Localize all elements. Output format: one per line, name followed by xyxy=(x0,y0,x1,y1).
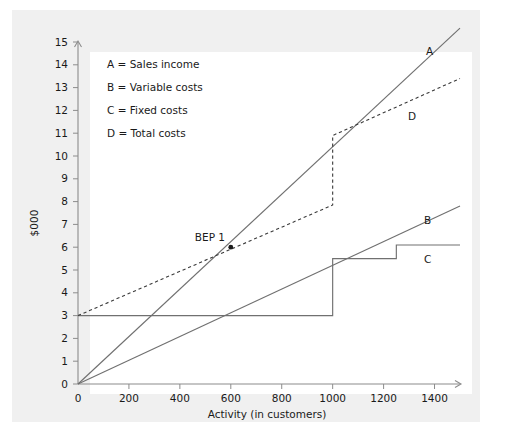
y-axis-title: $000 xyxy=(28,210,40,237)
bep-marker-dot xyxy=(228,245,233,250)
y-tick-0: 0 xyxy=(61,378,78,390)
y-tick-label: 8 xyxy=(61,195,68,207)
series-end-labels: A D B C xyxy=(408,45,434,265)
y-tick-label: 9 xyxy=(61,172,68,184)
y-tick-11: 11 xyxy=(55,127,78,139)
x-tick-label: 600 xyxy=(221,392,241,404)
y-tick-label: 7 xyxy=(61,218,68,230)
x-tick-1400: 1400 xyxy=(421,384,448,404)
legend-entry-a: A = Sales income xyxy=(107,58,199,70)
y-tick-1: 1 xyxy=(61,355,78,367)
x-tick-800: 800 xyxy=(272,384,292,404)
y-tick-label: 14 xyxy=(55,58,69,70)
y-tick-label: 0 xyxy=(61,378,68,390)
x-tick-label: 400 xyxy=(170,392,190,404)
x-tick-1000: 1000 xyxy=(319,384,346,404)
y-tick-label: 6 xyxy=(61,241,68,253)
bep-label: BEP 1 xyxy=(195,231,225,243)
chart-page: 0 1 2 3 4 5 6 7 8 9 10 11 12 13 14 15 0 … xyxy=(0,0,508,444)
y-tick-7: 7 xyxy=(61,218,78,230)
series-c-fixed-costs xyxy=(78,245,460,316)
y-axis-ticks: 0 1 2 3 4 5 6 7 8 9 10 11 12 13 14 15 xyxy=(55,36,78,390)
y-tick-14: 14 xyxy=(55,58,78,70)
y-tick-4: 4 xyxy=(61,286,78,298)
y-tick-label: 1 xyxy=(61,355,68,367)
x-tick-200: 200 xyxy=(119,384,139,404)
y-tick-label: 11 xyxy=(55,127,68,139)
series-label-c: C xyxy=(424,253,431,265)
x-axis-ticks: 0 200 400 600 800 1000 1200 1400 xyxy=(75,384,448,404)
x-tick-label: 0 xyxy=(75,392,82,404)
legend-entry-c: C = Fixed costs xyxy=(107,104,188,116)
y-tick-label: 15 xyxy=(55,36,68,48)
chart-card: 0 1 2 3 4 5 6 7 8 9 10 11 12 13 14 15 0 … xyxy=(12,10,480,422)
y-tick-12: 12 xyxy=(55,104,78,116)
y-tick-label: 3 xyxy=(61,309,68,321)
y-tick-10: 10 xyxy=(55,150,78,162)
x-tick-label: 1200 xyxy=(370,392,397,404)
x-tick-label: 800 xyxy=(272,392,292,404)
y-tick-8: 8 xyxy=(61,195,78,207)
x-tick-label: 1000 xyxy=(319,392,346,404)
annotation-bep-1: BEP 1 xyxy=(195,231,233,250)
x-tick-label: 200 xyxy=(119,392,139,404)
x-axis-title: Activity (in customers) xyxy=(208,408,327,420)
y-tick-label: 10 xyxy=(55,150,68,162)
y-tick-label: 13 xyxy=(55,81,68,93)
x-tick-400: 400 xyxy=(170,384,190,404)
series-label-b: B xyxy=(424,214,431,226)
y-tick-15: 15 xyxy=(55,36,78,48)
y-tick-label: 2 xyxy=(61,332,68,344)
x-tick-600: 600 xyxy=(221,384,241,404)
legend-entry-b: B = Variable costs xyxy=(107,81,203,93)
y-tick-9: 9 xyxy=(61,172,78,184)
y-tick-2: 2 xyxy=(61,332,78,344)
series-label-d: D xyxy=(408,110,416,122)
y-tick-6: 6 xyxy=(61,241,78,253)
y-tick-label: 5 xyxy=(61,264,68,276)
x-tick-1200: 1200 xyxy=(370,384,397,404)
y-tick-3: 3 xyxy=(61,309,78,321)
break-even-chart: 0 1 2 3 4 5 6 7 8 9 10 11 12 13 14 15 0 … xyxy=(12,10,480,422)
legend-entry-d: D = Total costs xyxy=(107,127,186,139)
chart-legend: A = Sales income B = Variable costs C = … xyxy=(107,58,203,138)
series-label-a: A xyxy=(426,45,434,57)
y-tick-label: 4 xyxy=(61,286,68,298)
y-tick-13: 13 xyxy=(55,81,78,93)
y-tick-label: 12 xyxy=(55,104,68,116)
y-tick-5: 5 xyxy=(61,264,78,276)
x-tick-label: 1400 xyxy=(421,392,448,404)
series-b-variable-costs xyxy=(78,206,460,384)
